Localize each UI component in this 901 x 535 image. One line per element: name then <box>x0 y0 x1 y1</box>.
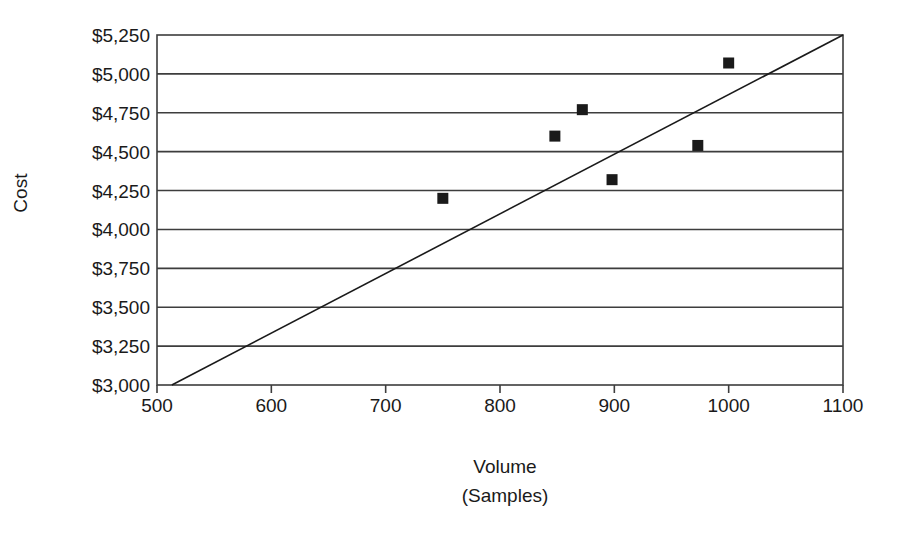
y-tick-label: $4,000 <box>50 220 150 239</box>
y-tick-label: $3,000 <box>50 376 150 395</box>
cost-volume-scatter-chart: Cost $3,000$3,250$3,500$3,750$4,000$4,25… <box>0 0 901 535</box>
x-tick-label: 600 <box>231 396 311 415</box>
y-tick-label: $3,500 <box>50 298 150 317</box>
x-tick-label: 500 <box>117 396 197 415</box>
x-axis-tick-marks <box>157 385 843 393</box>
data-point-marker <box>723 58 734 69</box>
trend-line <box>172 35 843 385</box>
plot-frame <box>157 35 843 385</box>
data-point-marker <box>549 131 560 142</box>
x-tick-label: 700 <box>346 396 426 415</box>
y-tick-label: $5,250 <box>50 26 150 45</box>
data-point-marker <box>437 193 448 204</box>
x-axis-title-line2: (Samples) <box>350 481 660 510</box>
x-axis-title: Volume (Samples) <box>350 452 660 510</box>
x-tick-label: 800 <box>460 396 540 415</box>
y-tick-label: $3,750 <box>50 259 150 278</box>
y-tick-label: $5,000 <box>50 65 150 84</box>
y-axis-title: Cost <box>10 163 32 223</box>
x-tick-label: 900 <box>574 396 654 415</box>
data-point-markers <box>437 58 734 204</box>
y-axis-tick-labels: $3,000$3,250$3,500$3,750$4,000$4,250$4,5… <box>42 0 150 400</box>
y-tick-label: $4,250 <box>50 182 150 201</box>
data-point-marker <box>692 140 703 151</box>
y-tick-label: $3,250 <box>50 337 150 356</box>
horizontal-gridlines <box>157 74 843 346</box>
data-point-marker <box>607 174 618 185</box>
x-tick-label: 1100 <box>803 396 883 415</box>
x-tick-label: 1000 <box>689 396 769 415</box>
trend-line-segment <box>172 35 843 385</box>
y-tick-label: $4,500 <box>50 143 150 162</box>
x-axis-title-line1: Volume <box>350 452 660 481</box>
data-point-marker <box>577 104 588 115</box>
y-tick-label: $4,750 <box>50 104 150 123</box>
